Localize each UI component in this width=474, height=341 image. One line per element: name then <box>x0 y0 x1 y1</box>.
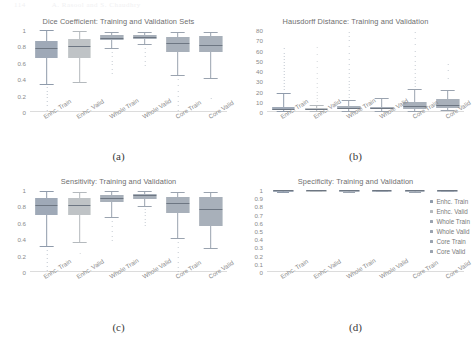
legend-item: Enhc. Train <box>430 198 470 205</box>
outlier-point <box>46 101 47 102</box>
cap-lower <box>72 242 86 243</box>
outlier-point <box>448 78 449 79</box>
y-tick-label: 0.2 <box>254 252 263 259</box>
box-plot-item <box>101 190 124 272</box>
box-iqr <box>166 197 189 214</box>
y-tick-label: 1 <box>23 27 26 34</box>
y-tick-label: 0.5 <box>254 228 263 235</box>
outlier-point <box>448 64 449 65</box>
outlier-point <box>349 87 350 88</box>
outlier-point <box>46 254 47 255</box>
cap-upper <box>408 89 422 90</box>
y-tick-label: 20 <box>256 88 263 95</box>
cap-lower <box>72 82 86 83</box>
outlier-point <box>349 84 350 85</box>
legend-marker-icon <box>430 210 433 213</box>
y-tick-label: 0.2 <box>17 92 26 99</box>
y-tick-label: 50 <box>256 57 263 64</box>
outlier-point <box>316 98 317 99</box>
legend-marker-icon <box>430 230 433 233</box>
y-tick-label: 0.1 <box>254 260 263 267</box>
box-plot-item <box>338 30 361 112</box>
box-iqr <box>199 36 222 52</box>
outlier-point <box>349 59 350 60</box>
outlier-point <box>283 59 284 60</box>
whisker-lower <box>177 213 178 238</box>
median-line <box>438 190 458 191</box>
outlier-point <box>145 212 146 213</box>
outlier-point <box>112 64 113 65</box>
whisker-lower <box>79 58 80 82</box>
outlier-point <box>283 77 284 78</box>
y-tick-label: 10 <box>256 98 263 105</box>
outlier-point <box>283 48 284 49</box>
y-tick-label: 80 <box>256 27 263 34</box>
outlier-point <box>46 94 47 95</box>
outlier-point <box>46 266 47 267</box>
whisker-lower <box>46 215 47 246</box>
cap-upper <box>138 191 152 192</box>
cap-lower <box>105 48 119 49</box>
median-line <box>134 195 157 196</box>
median-line <box>68 205 91 206</box>
chart-title-c: Sensitivity: Training and Validation <box>0 177 237 186</box>
cap-upper <box>375 98 389 99</box>
outlier-point <box>349 94 350 95</box>
box-plot-item <box>305 30 328 112</box>
y-tick-label: 0.7 <box>254 211 263 218</box>
outlier-point <box>316 78 317 79</box>
box-plot-item <box>436 30 459 112</box>
cap-lower <box>138 44 152 45</box>
box-plot-item <box>306 190 326 272</box>
outlier-point <box>145 219 146 220</box>
median-line <box>101 38 124 39</box>
chart-title-b: Hausdorff Distance: Training and Validat… <box>237 17 474 26</box>
cap-lower <box>39 246 53 247</box>
outlier-point <box>316 67 317 68</box>
median-line <box>166 203 189 204</box>
y-tick-label: 1 <box>23 187 26 194</box>
outlier-point <box>46 97 47 98</box>
cap-upper <box>72 192 86 193</box>
cap-lower <box>105 217 119 218</box>
cap-upper <box>309 105 323 106</box>
y-tick-label: 0 <box>260 109 263 116</box>
figure-grid: Dice Coefficient: Training and Validatio… <box>0 10 474 341</box>
median-line <box>166 43 189 44</box>
outlier-point <box>283 89 284 90</box>
x-tick-labels-d: Enhc. TrainEnhc. ValidWhole TrainWhole V… <box>267 274 464 308</box>
outlier-point <box>178 91 179 92</box>
outlier-point <box>316 61 317 62</box>
box-plot-item <box>274 190 294 272</box>
median-line <box>35 48 58 49</box>
caption-d: (d) <box>237 321 474 333</box>
median-line <box>405 190 425 191</box>
outlier-point <box>349 81 350 82</box>
y-tick-label: 0.6 <box>17 59 26 66</box>
cap-upper <box>441 90 455 91</box>
outlier-point <box>316 54 317 55</box>
legend-item: Core Train <box>430 238 470 245</box>
outlier-point <box>415 44 416 45</box>
outlier-point <box>316 83 317 84</box>
outlier-point <box>178 257 179 258</box>
box-plot-item <box>68 190 91 272</box>
legend-item: Whole Train <box>430 218 470 225</box>
whisker-lower <box>210 52 211 78</box>
median-line <box>199 209 222 210</box>
panel-b: Hausdorff Distance: Training and Validat… <box>237 10 474 170</box>
cap-upper <box>39 30 53 31</box>
legend-item: Whole Valid <box>430 228 470 235</box>
outlier-point <box>283 80 284 81</box>
y-tick-label: 70 <box>256 37 263 44</box>
box-plot-item <box>199 190 222 272</box>
outlier-point <box>112 226 113 227</box>
outlier-point <box>211 98 212 99</box>
y-tick-label: 0.4 <box>17 76 26 83</box>
caption-b: (b) <box>237 150 474 162</box>
whisker-upper <box>414 89 415 102</box>
y-tick-label: 30 <box>256 78 263 85</box>
y-tick-label: 0.6 <box>254 219 263 226</box>
outlier-point <box>283 86 284 87</box>
outlier-point <box>79 253 80 254</box>
